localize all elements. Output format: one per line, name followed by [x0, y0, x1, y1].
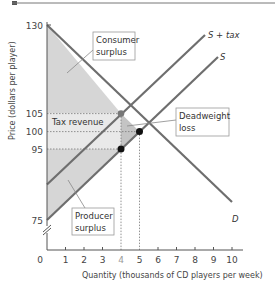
svg-text:5: 5 [137, 255, 143, 265]
svg-text:Producer: Producer [75, 211, 113, 221]
svg-text:8: 8 [192, 255, 198, 265]
svg-text:4: 4 [118, 255, 124, 265]
label-s-plus-tax: S + tax [208, 30, 240, 40]
svg-text:1: 1 [63, 255, 69, 265]
x-axis-title: Quantity (thousands of CD players per we… [82, 271, 263, 280]
y-tick-75: 75 [32, 216, 43, 226]
point-buyer-price [118, 110, 125, 117]
label-tax-revenue: Tax revenue [51, 117, 104, 127]
svg-text:surplus: surplus [96, 47, 127, 57]
y-tick-105: 105 [26, 109, 43, 119]
tax-incidence-chart: 130 105 100 95 75 0 1 2 3 4 5 6 7 8 9 10… [0, 0, 275, 291]
point-equilibrium [136, 128, 143, 135]
svg-text:7: 7 [174, 255, 180, 265]
svg-text:0: 0 [37, 255, 43, 265]
svg-text:Consumer: Consumer [96, 35, 140, 45]
svg-text:10: 10 [226, 255, 238, 265]
svg-text:surplus: surplus [75, 223, 106, 233]
y-tick-130: 130 [26, 21, 43, 31]
point-seller-price [118, 146, 125, 153]
svg-text:9: 9 [211, 255, 217, 265]
svg-text:6: 6 [155, 255, 161, 265]
label-s: S [220, 52, 226, 62]
y-axis-title: Price (dollars per player) [8, 41, 17, 140]
svg-text:loss: loss [179, 123, 196, 133]
svg-text:Deadweight: Deadweight [179, 111, 231, 121]
svg-text:3: 3 [100, 255, 106, 265]
y-tick-100: 100 [26, 127, 43, 137]
x-tick-labels: 0 1 2 3 4 5 6 7 8 9 10 [37, 255, 238, 265]
y-tick-95: 95 [32, 145, 43, 155]
svg-text:2: 2 [81, 255, 87, 265]
label-d: D [232, 214, 239, 224]
